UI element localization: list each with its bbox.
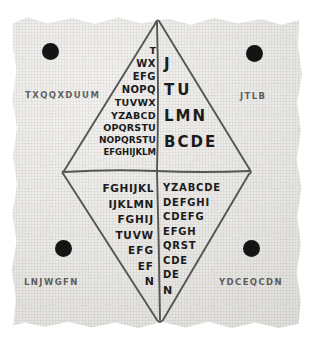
letter-row: TUVW [76,230,154,241]
letter-row: YZABCD [88,111,156,121]
cipher-label-bottom-right: YDCEQCDN [219,277,283,287]
letter-row: EF [76,261,154,272]
cipher-label-top-right: JTLB [240,91,266,101]
letter-row: OPQRSTU [88,123,156,133]
letter-row: EFGHIJKLM [88,148,156,157]
letter-row: IJKLMN [76,199,154,210]
letter-row: CDE [163,256,245,266]
lower-left-triangle: FGHIJKL IJKLMN FGHIJ TUVW EFG EF N [76,183,154,287]
upper-left-triangle: T WX EFG NOPQ TUVWX YZABCD OPQRSTU NOPQR… [88,47,156,156]
letter-row: EFGH [163,227,245,237]
letter-row: FGHIJ [76,214,154,225]
letter-row: WX [88,59,156,69]
letter-row: NOPQRSTU [88,136,156,145]
cipher-diamond-diagram [0,0,312,343]
letter-row: YZABCDE [163,183,245,193]
letter-row: N [76,276,154,287]
screenshot-canvas: T WX EFG NOPQ TUVWX YZABCD OPQRSTU NOPQR… [0,0,312,343]
letter-row: EFG [88,72,156,82]
letter-row: LMN [164,109,244,124]
upper-right-triangle: J TU LMN BCDE [164,57,244,150]
letter-row: CDEFG [163,212,245,222]
letter-row: EFG [76,245,154,256]
letter-row: QRST [163,241,245,251]
cipher-label-bottom-left: LNJWGFN [24,277,79,287]
letter-row: TU [164,83,244,98]
letter-row: BCDE [164,135,244,150]
cipher-label-top-left: TXQQXDUUM [25,90,100,100]
letter-row: FGHIJKL [76,183,154,194]
letter-row: DEFGHI [163,198,245,208]
letter-row: T [88,47,156,56]
letter-row: J [164,57,244,72]
